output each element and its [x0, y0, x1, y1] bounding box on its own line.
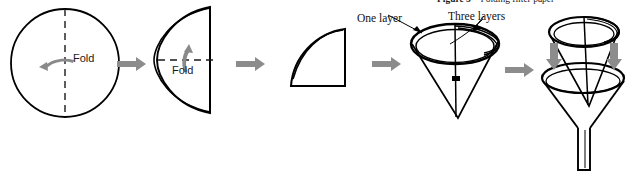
label-three-layers: Three layers	[448, 10, 505, 22]
label-one-layer: One layer	[357, 12, 402, 24]
arrow-right-icon	[505, 63, 534, 77]
figure-caption-number: Figure 3	[437, 0, 471, 4]
transition-arrow-2	[236, 56, 266, 72]
quarter-circle-outline	[291, 29, 345, 86]
transition-arrow-4	[505, 62, 535, 78]
funnel-rim-inner	[546, 69, 620, 93]
step-cone	[398, 14, 514, 124]
arrow-right-icon	[372, 57, 401, 71]
one-layer-leader-arrow	[413, 26, 422, 33]
transition-arrow-1	[117, 56, 147, 72]
figure-folding-filter-paper: Figure 3 Folding filter paper Fold	[0, 0, 626, 173]
fold-curved-arrow-icon	[39, 59, 74, 71]
fold-label-step1: Fold	[73, 52, 94, 64]
funnel-body-right	[590, 81, 624, 128]
arrow-right-icon	[236, 57, 265, 71]
fold-label-step2: Fold	[172, 64, 193, 76]
figure-caption-title: Folding filter paper	[480, 0, 554, 4]
funnel-body-left	[543, 81, 578, 128]
cone-center-seam	[455, 25, 456, 117]
cone-seam-tick	[452, 76, 460, 81]
arrow-right-icon	[117, 57, 146, 71]
figure-caption: Figure 3 Folding filter paper	[437, 0, 554, 4]
paper-cone-seam	[584, 17, 588, 105]
step-full-circle	[6, 4, 124, 122]
step-funnel	[540, 10, 626, 173]
step-quarter-circle	[283, 24, 355, 96]
paper-cone-flap	[584, 17, 619, 43]
step-half-circle	[148, 4, 216, 116]
quarter-circle-back-layer	[293, 30, 343, 79]
funnel-stem	[578, 128, 590, 170]
